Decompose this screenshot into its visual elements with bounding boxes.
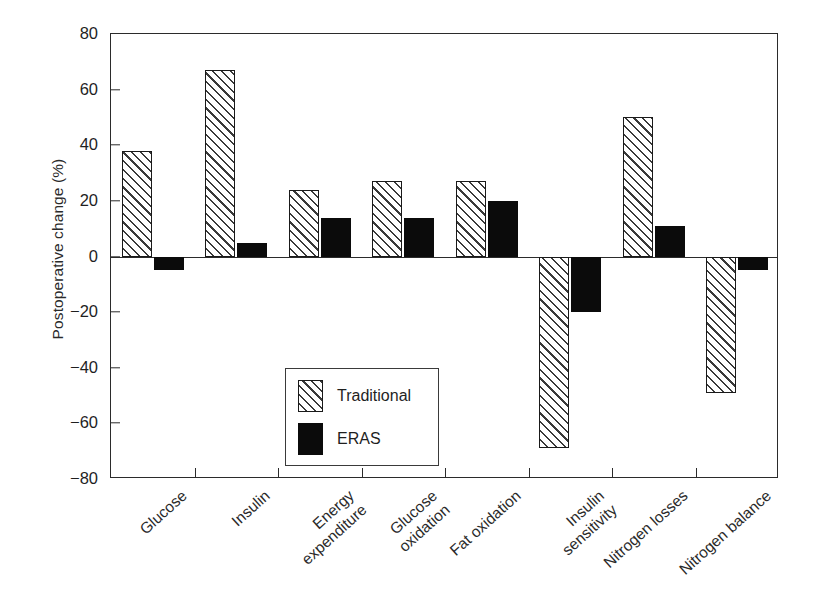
x-tick-label: Nitrogen losses <box>599 486 691 572</box>
bar-traditional <box>539 257 569 449</box>
x-tick-label: Insulin <box>228 486 274 530</box>
bar-traditional <box>372 181 402 256</box>
bar-eras <box>237 243 267 257</box>
legend-swatch-eras-icon <box>298 423 323 455</box>
y-tick-label: 80 <box>42 24 98 43</box>
legend-swatch-traditional-icon <box>298 380 323 412</box>
bar-traditional <box>706 257 736 393</box>
y-tick-label: −80 <box>42 469 98 488</box>
bar-eras <box>571 257 601 313</box>
x-tick-label: Energyexpenditure <box>285 486 371 568</box>
plot-inner <box>111 34 777 477</box>
bar-eras <box>738 257 768 271</box>
y-tick-mark <box>111 200 120 201</box>
x-tick-mark <box>445 468 446 477</box>
bar-eras <box>655 226 685 257</box>
y-tick-mark <box>111 311 120 312</box>
y-tick-mark <box>111 423 120 424</box>
x-tick-label: Glucoseoxidation <box>382 486 454 556</box>
y-tick-label: 0 <box>42 246 98 265</box>
bar-traditional <box>623 117 653 256</box>
legend-item-traditional: Traditional <box>298 380 411 412</box>
x-tick-mark <box>362 468 363 477</box>
y-tick-mark <box>111 145 120 146</box>
bar-traditional <box>456 181 486 256</box>
y-tick-label: 40 <box>42 135 98 154</box>
x-tick-mark <box>696 468 697 477</box>
bar-traditional <box>122 151 152 257</box>
zero-baseline <box>111 257 777 258</box>
bar-eras <box>321 218 351 257</box>
legend-label-eras: ERAS <box>337 430 381 448</box>
plot-area: Traditional ERAS <box>110 33 778 478</box>
x-tick-label: Fat oxidation <box>446 486 525 560</box>
x-tick-mark <box>529 468 530 477</box>
legend-label-traditional: Traditional <box>337 387 411 405</box>
y-tick-mark <box>111 367 120 368</box>
bar-traditional <box>205 70 235 256</box>
bar-eras <box>154 257 184 271</box>
bar-chart-figure: Postoperative change (%) 806040200−20−40… <box>0 0 815 606</box>
bar-eras <box>488 201 518 257</box>
y-tick-label: −20 <box>42 302 98 321</box>
y-tick-label: 20 <box>42 190 98 209</box>
x-tick-mark <box>278 468 279 477</box>
y-tick-label: −60 <box>42 413 98 432</box>
chart-legend: Traditional ERAS <box>285 368 439 466</box>
y-tick-mark <box>111 89 120 90</box>
x-tick-mark <box>195 468 196 477</box>
bar-eras <box>404 218 434 257</box>
bar-traditional <box>289 190 319 257</box>
legend-item-eras: ERAS <box>298 423 381 455</box>
x-tick-label: Glucose <box>135 486 190 538</box>
y-tick-label: 60 <box>42 79 98 98</box>
y-axis-tick-labels: 806040200−20−40−60−80 <box>42 0 98 606</box>
x-tick-mark <box>612 468 613 477</box>
y-tick-label: −40 <box>42 357 98 376</box>
